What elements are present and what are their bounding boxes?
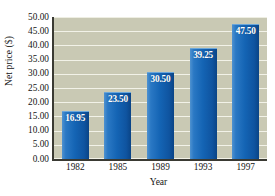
y-axis-tick-label: 35.00 [13, 55, 49, 64]
y-axis-tick-label: 0.00 [13, 155, 49, 164]
x-axis-tick-label: 1997 [224, 163, 267, 172]
y-axis-tick-label: 50.00 [13, 13, 49, 22]
bar-slot: 16.95 [54, 17, 97, 159]
bar-value-label: 16.95 [65, 114, 85, 123]
y-axis-tick-label: 30.00 [13, 69, 49, 78]
x-axis-tick-label: 1993 [182, 163, 225, 172]
bar-slot: 23.50 [97, 17, 140, 159]
bar[interactable]: 39.25 [190, 48, 217, 159]
bar-value-label: 30.50 [151, 75, 171, 84]
x-axis-tick-label: 1989 [139, 163, 182, 172]
x-axis-title: Year [52, 178, 265, 188]
bar[interactable]: 47.50 [232, 24, 259, 159]
y-axis-tick-label: 40.00 [13, 41, 49, 50]
y-axis-tick-label: 5.00 [13, 140, 49, 149]
bar-slot: 47.50 [224, 17, 267, 159]
bar-value-label: 39.25 [193, 51, 213, 60]
bars-layer: 16.9523.5030.5039.2547.50 [54, 17, 267, 159]
bar[interactable]: 16.95 [62, 111, 89, 159]
bar-value-label: 23.50 [108, 95, 128, 104]
y-axis-tick-label: 20.00 [13, 98, 49, 107]
x-axis-tick-labels: 19821985198919931997 [54, 163, 267, 175]
y-axis-tick-label: 15.00 [13, 112, 49, 121]
y-axis-tick-label: 45.00 [13, 27, 49, 36]
x-axis-tick-label: 1985 [97, 163, 140, 172]
bar-chart-figure: Net price ($) 50.0045.0040.0035.0030.002… [0, 0, 275, 196]
x-axis-tick-label: 1982 [54, 163, 97, 172]
bar[interactable]: 30.50 [147, 72, 174, 159]
bar-value-label: 47.50 [236, 27, 256, 36]
y-axis-tick-label: 25.00 [13, 84, 49, 93]
y-axis-tick-labels: 50.0045.0040.0035.0030.0025.0020.0015.00… [13, 17, 49, 159]
bar-slot: 30.50 [139, 17, 182, 159]
plot-area: 16.9523.5030.5039.2547.50 [52, 17, 267, 161]
bar[interactable]: 23.50 [104, 92, 131, 159]
bar-slot: 39.25 [182, 17, 225, 159]
y-axis-tick-label: 10.00 [13, 126, 49, 135]
